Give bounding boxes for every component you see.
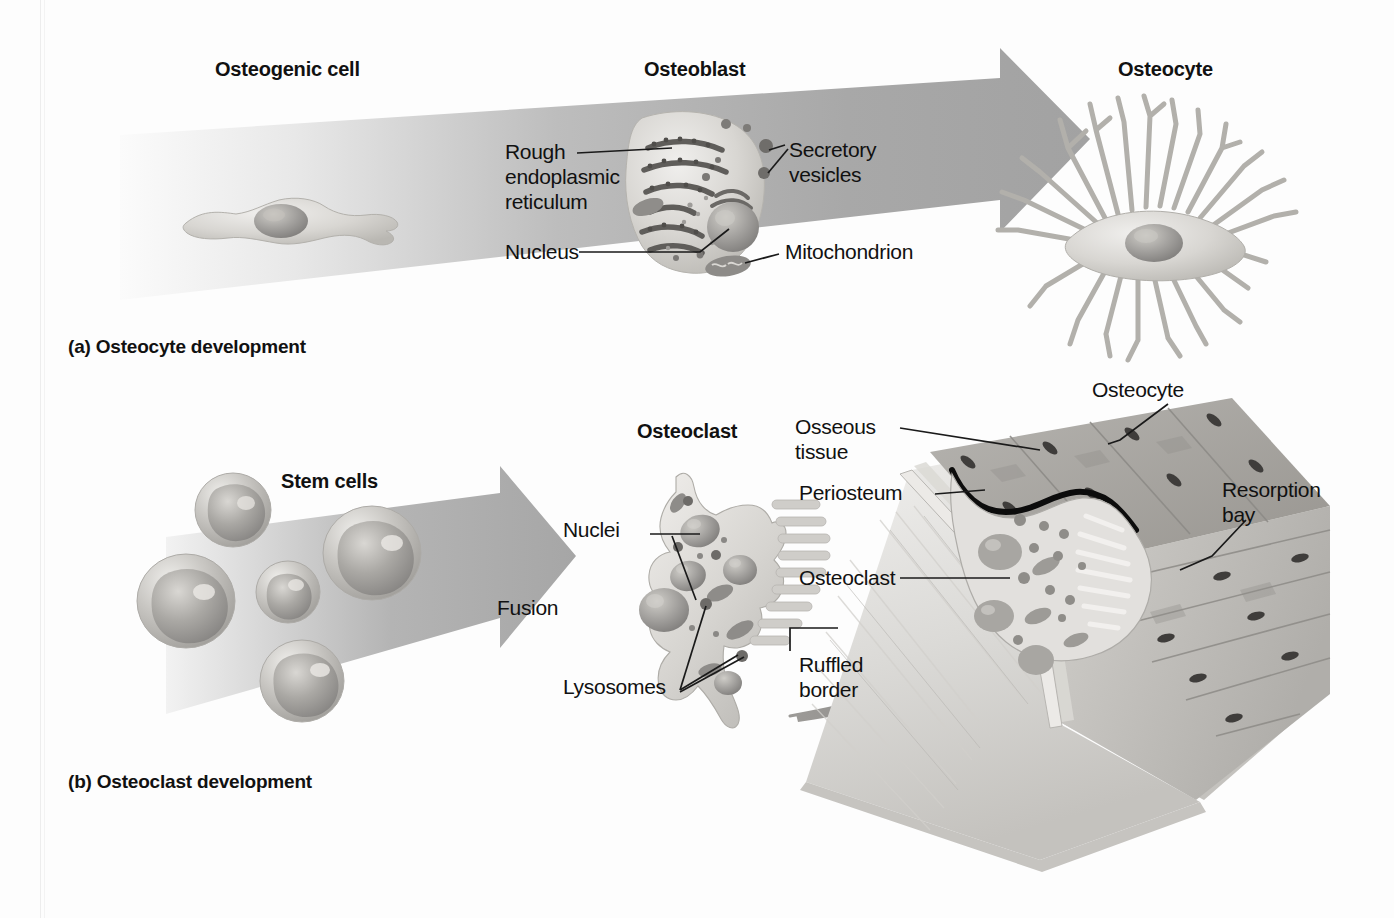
- label-secretory-vesicles-line1: Secretory: [789, 138, 876, 162]
- heading-osteoclast: Osteoclast: [637, 420, 737, 443]
- label-ruffled-border-line2: border: [799, 678, 858, 702]
- heading-osteocyte: Osteocyte: [1118, 58, 1213, 81]
- label-resorption-bay-line2: bay: [1222, 503, 1255, 527]
- label-osseous-tissue-line2: tissue: [795, 440, 848, 464]
- label-periosteum: Periosteum: [799, 481, 902, 505]
- label-osteoclast-bone: Osteoclast: [799, 566, 895, 590]
- label-resorption-bay-line1: Resorption: [1222, 478, 1321, 502]
- caption-panel-b: (b) Osteoclast development: [68, 771, 312, 793]
- label-rough-er-line3: reticulum: [505, 190, 588, 214]
- label-mitochondrion: Mitochondrion: [785, 240, 913, 264]
- label-ruffled-border-line1: Ruffled: [799, 653, 863, 677]
- caption-panel-a: (a) Osteocyte development: [68, 336, 306, 358]
- label-fusion: Fusion: [497, 596, 558, 620]
- label-osseous-tissue-line1: Osseous: [795, 415, 876, 439]
- figure-canvas: Osteogenic cell Osteoblast Osteocyte Rou…: [0, 0, 1394, 918]
- heading-osteoblast: Osteoblast: [644, 58, 745, 81]
- heading-stem-cells: Stem cells: [281, 470, 378, 493]
- label-osteocyte-bone: Osteocyte: [1092, 378, 1184, 402]
- heading-osteogenic-cell: Osteogenic cell: [215, 58, 360, 81]
- bone-block-illustration: [800, 398, 1330, 872]
- label-nuclei: Nuclei: [563, 518, 620, 542]
- label-nucleus: Nucleus: [505, 240, 579, 264]
- label-rough-er-line2: endoplasmic: [505, 165, 620, 189]
- label-rough-er-line1: Rough: [505, 140, 565, 164]
- label-secretory-vesicles-line2: vesicles: [789, 163, 861, 187]
- label-lysosomes: Lysosomes: [563, 675, 666, 699]
